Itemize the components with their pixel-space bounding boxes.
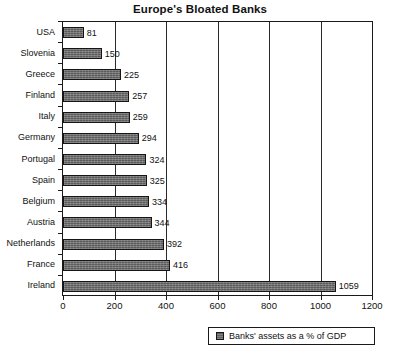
bar-row: 392 (63, 239, 372, 250)
category-tick (58, 275, 62, 276)
category-label: Netherlands (6, 239, 55, 248)
bar-row: 416 (63, 260, 372, 271)
category-label: Finland (25, 91, 55, 100)
plot-area: 811502252572592943243253343443924161059 (62, 21, 373, 296)
category-label: France (27, 260, 55, 269)
bar (63, 154, 146, 165)
category-tick (58, 127, 62, 128)
bar-value-label: 392 (167, 240, 182, 249)
category-tick (58, 42, 62, 43)
value-tick-label: 1000 (310, 301, 331, 311)
bar-row: 257 (63, 91, 372, 102)
legend-label: Banks' assets as a % of GDP (229, 332, 346, 341)
bar-row: 334 (63, 196, 372, 207)
value-tick-label: 800 (261, 301, 277, 311)
bar-value-label: 150 (105, 49, 120, 58)
bar (63, 175, 147, 186)
value-tick-label: 400 (158, 301, 174, 311)
value-tick-label: 1200 (361, 301, 382, 311)
bar-row: 324 (63, 154, 372, 165)
category-label: Italy (38, 112, 55, 121)
category-label: Belgium (22, 196, 55, 205)
bar-row: 1059 (63, 281, 372, 292)
category-tick (58, 106, 62, 107)
bar-value-label: 257 (132, 92, 147, 101)
bar (63, 281, 336, 292)
bar-value-label: 81 (87, 28, 97, 37)
bar-row: 294 (63, 133, 372, 144)
bar (63, 112, 130, 123)
category-tick (58, 84, 62, 85)
category-tick (58, 63, 62, 64)
category-tick (58, 169, 62, 170)
bar-value-label: 344 (155, 218, 170, 227)
bar-row: 259 (63, 112, 372, 123)
bar (63, 69, 121, 80)
bar-row: 81 (63, 27, 372, 38)
bars-layer: 811502252572592943243253343443924161059 (63, 22, 372, 295)
bar-value-label: 1059 (339, 282, 359, 291)
bar-value-label: 334 (152, 197, 167, 206)
category-axis-labels: USASloveniaGreeceFinlandItalyGermanyPort… (0, 21, 59, 296)
category-tick (58, 148, 62, 149)
category-axis-ticks (58, 21, 63, 296)
bar-value-label: 416 (173, 261, 188, 270)
category-label: USA (36, 27, 55, 36)
category-label: Germany (18, 133, 55, 142)
bar (63, 217, 152, 228)
category-label: Slovenia (20, 48, 55, 57)
bar-value-label: 259 (133, 113, 148, 122)
bar-value-label: 325 (150, 176, 165, 185)
category-tick (58, 233, 62, 234)
category-label: Greece (25, 69, 55, 78)
bar (63, 48, 102, 59)
value-tick-label: 600 (210, 301, 226, 311)
bar-row: 325 (63, 175, 372, 186)
category-tick (58, 254, 62, 255)
bar-value-label: 294 (142, 134, 157, 143)
value-tick-label: 0 (60, 301, 65, 311)
bar-value-label: 225 (124, 70, 139, 79)
bar (63, 27, 84, 38)
bar-row: 344 (63, 217, 372, 228)
bar (63, 133, 139, 144)
category-tick (58, 211, 62, 212)
bar (63, 260, 170, 271)
category-label: Austria (27, 217, 55, 226)
category-label: Portugal (21, 154, 55, 163)
category-label: Ireland (27, 281, 55, 290)
bar-row: 225 (63, 69, 372, 80)
value-axis-labels: 020040060080010001200 (0, 301, 400, 315)
value-tick-label: 200 (107, 301, 123, 311)
legend-swatch-icon (216, 332, 224, 340)
bar (63, 91, 129, 102)
bar-value-label: 324 (149, 155, 164, 164)
bar (63, 196, 149, 207)
bar-chart-figure: Europe's Bloated Banks 81150225257259294… (0, 0, 400, 363)
bar (63, 239, 164, 250)
category-tick (58, 21, 62, 22)
bar-row: 150 (63, 48, 372, 59)
chart-title: Europe's Bloated Banks (0, 3, 400, 15)
chart-legend: Banks' assets as a % of GDP (208, 327, 375, 345)
category-label: Spain (32, 175, 55, 184)
category-tick (58, 190, 62, 191)
